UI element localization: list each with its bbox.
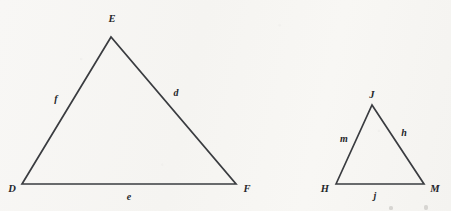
side-label-m: m xyxy=(340,134,348,144)
vertex-label-j: J xyxy=(369,90,374,101)
large-triangle-def xyxy=(22,37,236,184)
side-label-h: h xyxy=(401,128,407,138)
small-triangle-hjm xyxy=(336,105,424,184)
vertex-label-f: F xyxy=(243,184,250,195)
side-label-f: f xyxy=(54,94,57,104)
side-label-e: e xyxy=(127,192,131,202)
scan-artifact-mark xyxy=(424,205,428,210)
vertex-label-e: E xyxy=(108,14,115,25)
triangle-hjm-outline xyxy=(336,105,424,184)
triangle-def-outline xyxy=(22,37,236,184)
vertex-label-h: H xyxy=(321,184,329,195)
vertex-label-d: D xyxy=(8,184,16,195)
side-label-j: j xyxy=(374,191,377,201)
vertex-label-m: M xyxy=(430,184,439,195)
geometry-figure: D E F f d e H J M m h j xyxy=(0,0,451,211)
side-label-d: d xyxy=(174,88,179,98)
triangles-svg xyxy=(0,0,451,211)
scan-artifact-mark xyxy=(389,206,393,210)
